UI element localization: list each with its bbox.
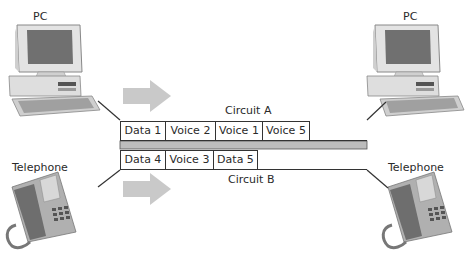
circuit-b-cell: Data 4 [120, 150, 166, 170]
circuit-b-label: Circuit B [228, 173, 274, 186]
telephone-icon [7, 172, 76, 248]
pc-left-label: PC [33, 10, 47, 23]
circuit-a-cell: Voice 5 [263, 121, 310, 141]
channel-divider-bar [120, 141, 367, 149]
circuit-a-cell: Voice 1 [216, 121, 263, 141]
pc-right-label: PC [403, 10, 417, 23]
circuit-b-cell-empty [258, 150, 367, 170]
circuit-b-cell: Voice 3 [166, 150, 214, 170]
circuit-a-cell: Voice 2 [166, 121, 216, 141]
circuit-a-cell: Data 1 [120, 121, 166, 141]
circuit-b-link-right [367, 170, 388, 188]
telephone-right-label: Telephone [388, 161, 444, 174]
telephone-icon [383, 172, 452, 248]
circuit-b-link-left [98, 170, 120, 187]
circuit-a-cell-empty [310, 121, 367, 141]
computer-icon [9, 25, 100, 116]
right-arrow-icon [123, 173, 171, 205]
circuit-a-link-right [367, 102, 386, 120]
telephone-left-label: Telephone [12, 161, 68, 174]
circuit-b-cell: Data 5 [214, 150, 258, 170]
right-arrow-icon [123, 80, 171, 112]
computer-icon [367, 25, 464, 116]
circuit-a-link-left [98, 101, 120, 120]
circuit-a-label: Circuit A [225, 104, 271, 117]
